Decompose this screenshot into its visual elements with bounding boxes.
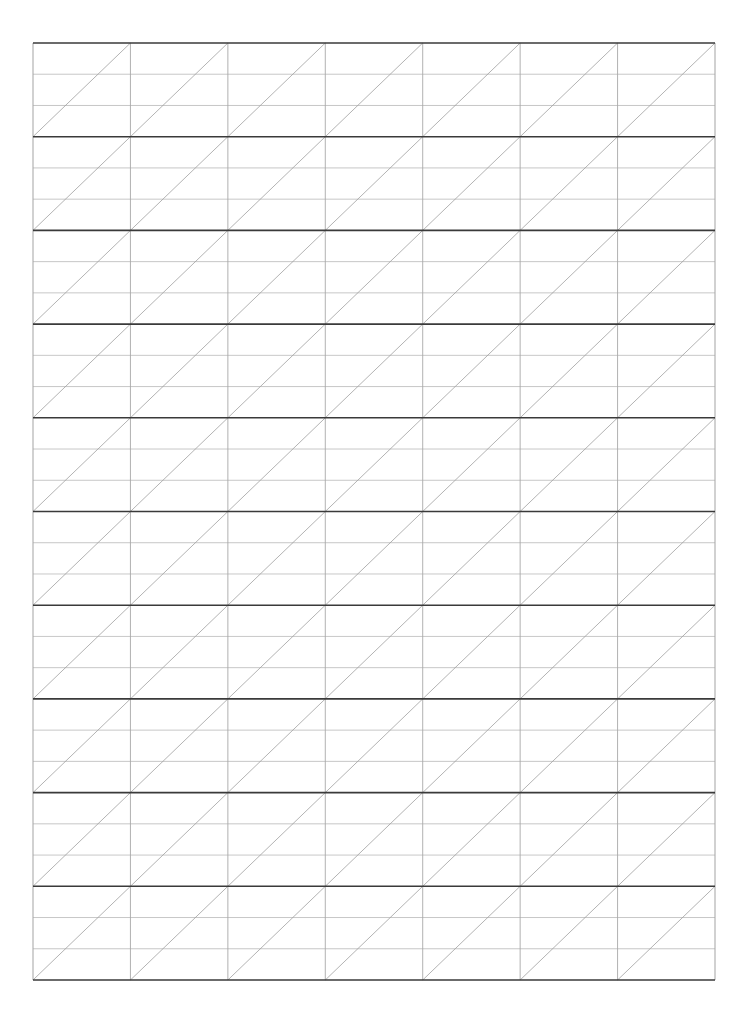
page-background [0,0,749,1017]
grid-canvas [0,0,749,1017]
worksheet-page [0,0,749,1017]
